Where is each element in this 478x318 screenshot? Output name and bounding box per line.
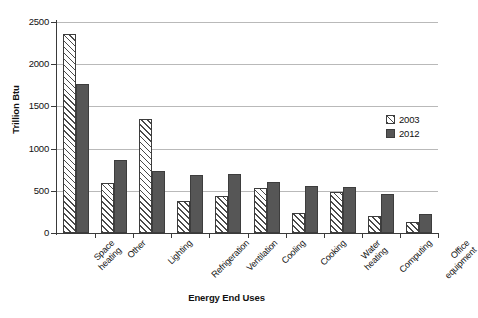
bar-2012 [152, 171, 165, 233]
bar-2012 [190, 175, 203, 233]
x-tick-mark [324, 233, 325, 238]
x-category-label-line: Refrigeration [209, 238, 251, 280]
x-category-label: Refrigeration [209, 238, 251, 280]
bar-2003 [406, 222, 419, 233]
x-category-label: Spaceheating [89, 238, 123, 272]
bar-group [292, 22, 318, 233]
x-category-label: Computing [398, 238, 435, 275]
x-tick-mark [286, 233, 287, 238]
bar-2003 [139, 119, 152, 233]
legend-item: 2012 [386, 127, 442, 140]
x-category-label: Cooking [318, 238, 347, 267]
x-category-label: Waterheating [356, 238, 390, 272]
bar-group [254, 22, 280, 233]
y-tick-label-container: 0 [0, 227, 49, 239]
x-tick-mark [133, 233, 134, 238]
bar-2003 [215, 196, 228, 233]
x-tick-mark [438, 233, 439, 238]
bar-2003 [177, 201, 190, 233]
bar-2003 [101, 183, 114, 233]
y-tick-label-container: 1000 [0, 143, 49, 155]
x-tick-mark [362, 233, 363, 238]
bar-2012 [267, 182, 280, 233]
bar-2003 [330, 192, 343, 233]
x-tick-mark [400, 233, 401, 238]
bar-2012 [343, 187, 356, 233]
y-tick-label: 1000 [3, 143, 49, 154]
y-tick-label: 0 [3, 227, 49, 238]
y-tick-label-container: 2500 [0, 16, 49, 28]
y-tick-label: 2500 [3, 16, 49, 27]
legend-swatch-2012 [386, 129, 395, 138]
y-tick-label-container: 2000 [0, 58, 49, 70]
x-category-label-line: Computing [398, 238, 435, 275]
x-category-label-line: Lighting [166, 238, 194, 266]
y-tick-label: 2000 [3, 58, 49, 69]
x-tick-mark [171, 233, 172, 238]
bar-2012 [305, 186, 318, 233]
x-category-label-line: Other [125, 238, 147, 260]
bar-2012 [381, 194, 394, 233]
legend-label: 2012 [399, 128, 419, 139]
legend-swatch-2003 [386, 115, 395, 124]
bar-2003 [292, 213, 305, 233]
bar-2003 [254, 188, 267, 233]
x-category-label: Lighting [166, 238, 194, 266]
legend-label: 2003 [399, 114, 419, 125]
bar-group [177, 22, 203, 233]
x-category-label: Officeequipment [435, 238, 478, 281]
x-category-label: Cooling [280, 238, 308, 266]
x-tick-mark [95, 233, 96, 238]
y-tick-label: 500 [3, 185, 49, 196]
bar-group [101, 22, 127, 233]
plot-area [57, 22, 438, 233]
bar-2003 [63, 34, 76, 233]
bar-2003 [368, 216, 381, 233]
bar-group [215, 22, 241, 233]
x-axis-title: Energy End Uses [0, 292, 453, 303]
y-tick-label-container: 500 [0, 185, 49, 197]
bar-group [139, 22, 165, 233]
y-tick-label-container: 1500 [0, 100, 49, 112]
bar-group [63, 22, 89, 233]
bar-2012 [76, 84, 89, 233]
bar-2012 [228, 174, 241, 233]
y-tick-label: 1500 [3, 100, 49, 111]
x-tick-mark [209, 233, 210, 238]
x-category-label: Other [125, 238, 147, 260]
bar-2012 [419, 214, 432, 233]
bar-group [330, 22, 356, 233]
x-category-label-line: Cooking [318, 238, 347, 267]
x-tick-mark [248, 233, 249, 238]
chart-legend: 20032012 [386, 113, 442, 141]
legend-item: 2003 [386, 113, 442, 126]
bar-2012 [114, 160, 127, 233]
x-category-label-line: Cooling [280, 238, 308, 266]
